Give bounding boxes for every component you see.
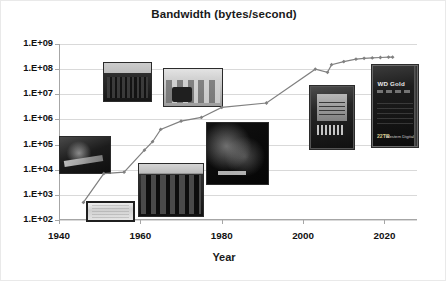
y-tick-label: 1.E+07 [1, 88, 53, 98]
x-tick-mark [222, 220, 223, 224]
x-tick-label: 1940 [29, 230, 89, 241]
y-tick-label: 1.E+09 [1, 38, 53, 48]
chart-container: Bandwidth (bytes/second) 194019601980200… [0, 0, 446, 281]
y-tick-label: 1.E+06 [1, 113, 53, 123]
data-point-marker [378, 56, 382, 60]
chart-title: Bandwidth (bytes/second) [1, 8, 446, 20]
data-point-marker [387, 55, 391, 59]
data-point-marker [391, 55, 395, 59]
x-tick-mark [140, 220, 141, 224]
series-polyline [83, 57, 392, 202]
y-tick-label: 1.E+02 [1, 214, 53, 224]
data-point-marker [342, 60, 346, 64]
x-tick-mark [303, 220, 304, 224]
y-tick-label: 1.E+08 [1, 63, 53, 73]
data-point-marker [354, 57, 358, 61]
x-tick-label: 2000 [273, 230, 333, 241]
x-tick-label: 1980 [192, 230, 252, 241]
x-tick-label: 2020 [354, 230, 414, 241]
x-axis-title: Year [1, 251, 446, 263]
data-point-marker [370, 56, 374, 60]
y-tick-label: 1.E+03 [1, 189, 53, 199]
y-tick-label: 1.E+04 [1, 164, 53, 174]
x-tick-label: 1960 [110, 230, 170, 241]
series-line [59, 44, 417, 220]
data-point-marker [220, 106, 224, 110]
data-point-marker [362, 56, 366, 60]
x-tick-mark [59, 220, 60, 224]
y-tick-label: 1.E+05 [1, 139, 53, 149]
plot-area: 19401960198020002020 WD [59, 44, 417, 220]
x-tick-mark [384, 220, 385, 224]
data-point-marker [179, 119, 183, 123]
data-point-marker [199, 116, 203, 120]
